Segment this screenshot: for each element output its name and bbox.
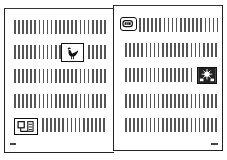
text-row: [139, 18, 219, 32]
right-page: [113, 5, 223, 151]
text-row: [14, 94, 106, 108]
text-row: [125, 68, 195, 82]
text-row: [88, 45, 106, 59]
page-number-marker: [10, 143, 16, 145]
text-row: [125, 118, 219, 132]
text-row: [125, 94, 219, 108]
text-row: [14, 69, 106, 83]
mouth-sign-icon: [120, 17, 137, 31]
page-number-marker: [211, 143, 218, 145]
bird-icon: [61, 43, 84, 62]
text-row: [14, 45, 62, 59]
text-row: [42, 118, 106, 132]
sunburst-tile-icon: [197, 67, 217, 84]
left-page: [4, 8, 114, 153]
phone-box-icon: [14, 118, 38, 135]
text-row: [14, 20, 106, 34]
text-row: [125, 43, 219, 57]
